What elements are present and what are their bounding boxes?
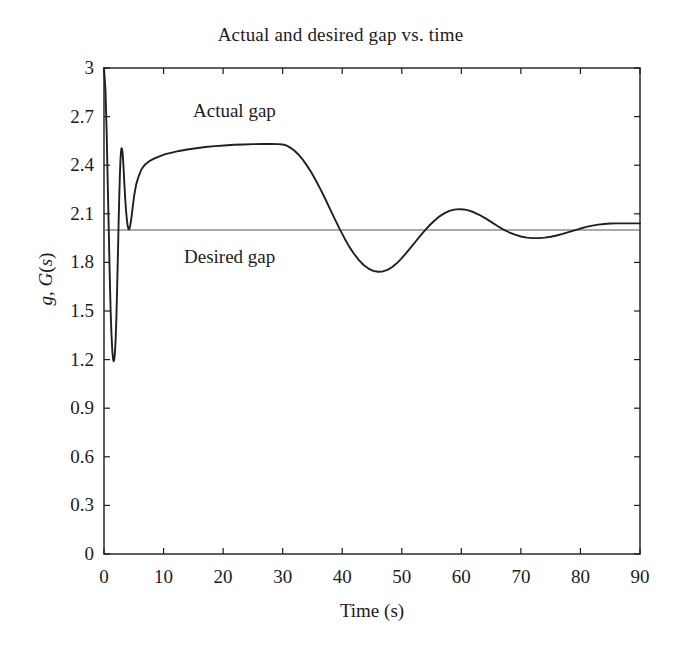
axes-frame-rect <box>104 68 640 554</box>
y-tick-label-9: 2.7 <box>34 106 94 128</box>
actual-gap-curve <box>104 68 640 361</box>
y-tick-label-3: 0.9 <box>34 397 94 419</box>
x-tick-label-8: 80 <box>550 566 610 588</box>
x-tick-label-3: 30 <box>253 566 313 588</box>
x-tick-label-0: 0 <box>74 566 134 588</box>
y-tick-label-5: 1.5 <box>34 300 94 322</box>
axes-frame <box>104 68 640 554</box>
x-tick-label-7: 70 <box>491 566 551 588</box>
plot-area <box>0 0 681 648</box>
y-tick-label-6: 1.8 <box>34 251 94 273</box>
y-tick-label-8: 2.4 <box>34 154 94 176</box>
x-tick-label-5: 50 <box>372 566 432 588</box>
series-actual-gap <box>104 68 640 361</box>
x-tick-label-2: 20 <box>193 566 253 588</box>
x-tick-label-4: 40 <box>312 566 372 588</box>
y-tick-label-2: 0.6 <box>34 446 94 468</box>
y-tick-label-1: 0.3 <box>34 494 94 516</box>
y-tick-label-0: 0 <box>34 543 94 565</box>
x-tick-label-6: 60 <box>431 566 491 588</box>
figure-container: Actual and desired gap vs. time g, G(s) … <box>0 0 681 648</box>
axis-ticks <box>104 68 640 554</box>
x-tick-label-9: 90 <box>610 566 670 588</box>
y-tick-label-10: 3 <box>34 57 94 79</box>
x-tick-label-1: 10 <box>134 566 194 588</box>
y-tick-label-4: 1.2 <box>34 349 94 371</box>
y-tick-label-7: 2.1 <box>34 203 94 225</box>
